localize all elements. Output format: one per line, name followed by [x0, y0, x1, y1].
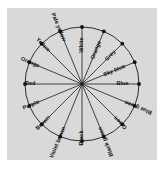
spoke-label: Blue green [123, 99, 153, 116]
vertex-dot [102, 29, 106, 33]
spoke-label: White [78, 38, 84, 53]
spoke-label: Black [78, 130, 84, 146]
spoke-label: Brown [34, 114, 51, 131]
vertex-dot [133, 60, 137, 64]
vertex-dot [120, 42, 124, 46]
spoke-label: Violet brown [48, 125, 67, 159]
spoke-label: Red [25, 80, 36, 86]
figure-canvas: WhiteOrangeGreySky blueBlueBlue greenGre… [0, 0, 165, 172]
spoke-label: Sky blue [102, 63, 126, 77]
colour-wheel-svg: WhiteOrangeGreySky blueBlueBlue greenGre… [7, 8, 157, 160]
diagram-panel: WhiteOrangeGreySky blueBlueBlue greenGre… [7, 8, 157, 160]
vertex-dot [80, 25, 84, 29]
spoke-label: Yellow [35, 36, 52, 53]
spoke-label: Grey [103, 48, 117, 62]
spoke-labels: WhiteOrangeGreySky blueBlueBlue greenGre… [20, 12, 153, 159]
vertex-dot [137, 82, 141, 86]
spoke-label: Pale yellow [50, 12, 67, 43]
spoke-label: Orange [89, 40, 102, 60]
spoke-label: Blue [116, 80, 128, 86]
spoke-label: Green [112, 115, 128, 131]
colour-wheel: WhiteOrangeGreySky blueBlueBlue greenGre… [7, 8, 157, 160]
spoke-label: Black green [96, 125, 114, 157]
spoke-label: Orange [20, 55, 40, 68]
